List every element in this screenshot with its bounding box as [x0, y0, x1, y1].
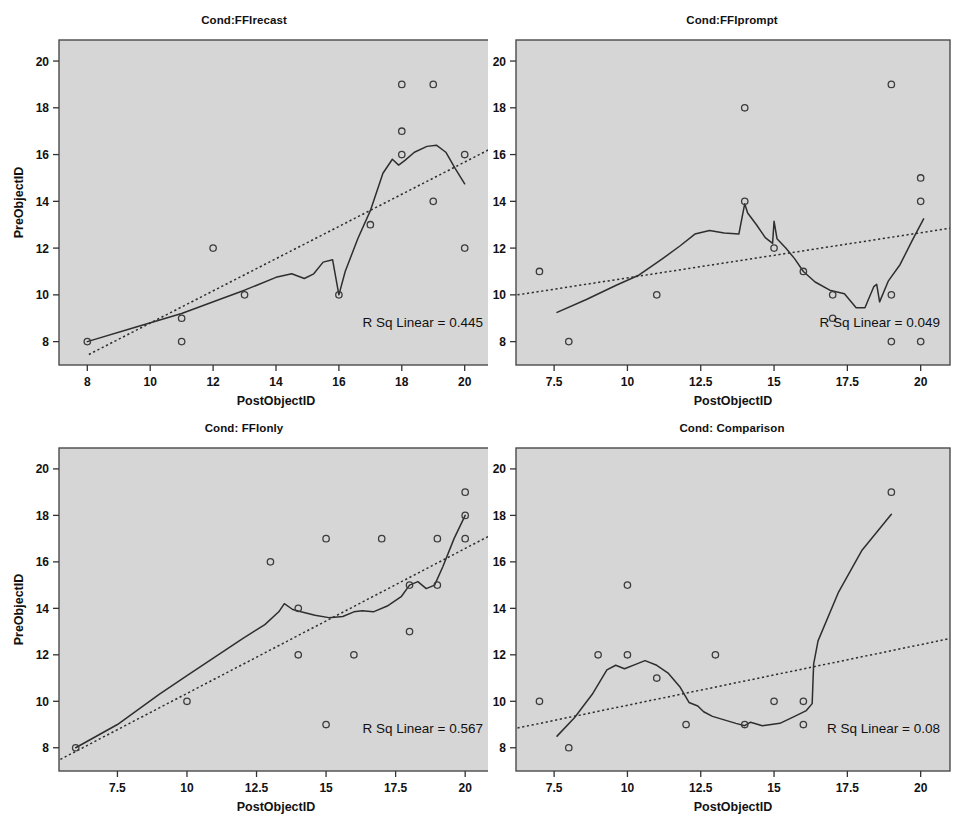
x-axis-tick-label: 10	[144, 375, 158, 389]
plot-area-group: 81012141618207.51012.51517.520PostObject…	[493, 40, 950, 408]
y-axis-tick-label: 20	[493, 55, 507, 69]
x-axis-tick-label: 17.5	[836, 781, 860, 795]
y-axis-tick-label: 20	[36, 462, 50, 476]
scatter-plot-svg: 81012141618207.51012.51517.520PostObject…	[488, 408, 976, 816]
panel-comparison: Cond: Comparison 81012141618207.51012.51…	[488, 408, 976, 816]
y-axis-tick-label: 18	[36, 101, 50, 115]
panel-ffirecast: Cond:FFIrecast 8101214161820810121416182…	[0, 0, 488, 408]
y-axis-tick-label: 20	[493, 462, 507, 476]
y-axis-tick-label: 10	[36, 695, 50, 709]
y-axis-tick-label: 14	[493, 602, 507, 616]
y-axis-tick-label: 18	[36, 509, 50, 523]
y-axis-tick-label: 16	[493, 148, 507, 162]
scatter-plot-svg: 81012141618208101214161820PostObjectIDPr…	[0, 0, 488, 408]
x-axis-tick-label: 7.5	[546, 375, 563, 389]
y-axis-title: PreObjectID	[12, 167, 26, 239]
y-axis-tick-label: 16	[36, 555, 50, 569]
y-axis-tick-label: 12	[493, 648, 507, 662]
r-squared-annotation: R Sq Linear = 0.445	[363, 315, 483, 330]
panel-ffiprompt: Cond:FFIprompt 81012141618207.51012.5151…	[488, 0, 976, 408]
x-axis-tick-label: 12.5	[245, 781, 269, 795]
y-axis-tick-label: 16	[36, 148, 50, 162]
x-axis-tick-label: 15	[767, 375, 781, 389]
scatter-plot-svg: 81012141618207.51012.51517.520PostObject…	[0, 408, 488, 816]
y-axis-tick-label: 18	[493, 509, 507, 523]
r-squared-annotation: R Sq Linear = 0.567	[363, 721, 483, 736]
scatterplot-matrix-figure: Cond:FFIrecast 8101214161820810121416182…	[0, 0, 976, 816]
x-axis-title: PostObjectID	[694, 394, 773, 408]
y-axis-tick-label: 10	[493, 695, 507, 709]
r-squared-annotation: R Sq Linear = 0.049	[820, 315, 940, 330]
x-axis-tick-label: 15	[767, 781, 781, 795]
y-axis-title: PreObjectID	[12, 574, 26, 646]
x-axis-tick-label: 17.5	[384, 781, 408, 795]
y-axis-tick-label: 14	[36, 195, 50, 209]
x-axis-tick-label: 20	[914, 781, 928, 795]
x-axis-tick-label: 17.5	[836, 375, 860, 389]
y-axis-tick-label: 10	[493, 288, 507, 302]
y-axis-tick-label: 14	[36, 602, 50, 616]
x-axis-tick-label: 10	[621, 781, 635, 795]
x-axis-tick-label: 12.5	[689, 375, 713, 389]
x-axis-tick-label: 20	[914, 375, 928, 389]
y-axis-tick-label: 12	[36, 648, 50, 662]
x-axis-tick-label: 12	[206, 375, 220, 389]
panel-ffionly: Cond: FFIonly 81012141618207.51012.51517…	[0, 408, 488, 816]
y-axis-tick-label: 12	[493, 242, 507, 256]
y-axis-tick-label: 16	[493, 555, 507, 569]
x-axis-tick-label: 14	[269, 375, 283, 389]
y-axis-tick-label: 8	[499, 741, 506, 755]
y-axis-tick-label: 18	[493, 101, 507, 115]
y-axis-tick-label: 20	[36, 55, 50, 69]
x-axis-tick-label: 15	[319, 781, 333, 795]
y-axis-tick-label: 8	[499, 335, 506, 349]
r-squared-annotation: R Sq Linear = 0.08	[827, 721, 940, 736]
x-axis-tick-label: 10	[621, 375, 635, 389]
x-axis-tick-label: 7.5	[109, 781, 126, 795]
x-axis-title: PostObjectID	[237, 394, 316, 408]
x-axis-tick-label: 18	[395, 375, 409, 389]
plot-area-group: 81012141618207.51012.51517.520PostObject…	[12, 448, 488, 814]
x-axis-tick-label: 20	[458, 375, 472, 389]
y-axis-tick-label: 8	[42, 741, 49, 755]
plot-area-group: 81012141618207.51012.51517.520PostObject…	[493, 448, 950, 814]
scatter-plot-svg: 81012141618207.51012.51517.520PostObject…	[488, 0, 976, 408]
y-axis-tick-label: 8	[42, 335, 49, 349]
x-axis-tick-label: 16	[332, 375, 346, 389]
x-axis-tick-label: 7.5	[546, 781, 563, 795]
x-axis-tick-label: 10	[180, 781, 194, 795]
x-axis-tick-label: 12.5	[689, 781, 713, 795]
plot-area-group: 81012141618208101214161820PostObjectIDPr…	[12, 40, 488, 408]
x-axis-tick-label: 8	[84, 375, 91, 389]
y-axis-tick-label: 12	[36, 242, 50, 256]
x-axis-title: PostObjectID	[237, 800, 316, 814]
x-axis-tick-label: 20	[458, 781, 472, 795]
y-axis-tick-label: 10	[36, 288, 50, 302]
x-axis-title: PostObjectID	[694, 800, 773, 814]
y-axis-tick-label: 14	[493, 195, 507, 209]
